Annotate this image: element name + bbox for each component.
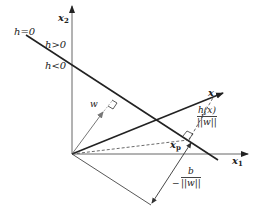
offset-numerator: b (181, 167, 201, 178)
negative-region-label: h<0 (45, 61, 66, 71)
origin-to-bias-vertex (72, 154, 151, 205)
w-label: w (90, 100, 98, 109)
x-label: x (208, 88, 214, 98)
boundary-label: h=0 (14, 27, 35, 37)
decision-boundary-line (26, 35, 218, 160)
xp-label: xp (170, 140, 181, 151)
distance-denominator: ||w|| (197, 117, 217, 127)
x1-axis-label: x1 (232, 156, 243, 167)
x2-axis-label: x2 (58, 13, 69, 24)
diagram-canvas (0, 0, 260, 216)
offset-denominator: ||w|| (181, 178, 201, 188)
positive-region-label: h>0 (45, 40, 66, 50)
offset-fraction: b ||w|| (181, 167, 201, 188)
distance-numerator: h(x) (197, 106, 217, 117)
offset-sign: − (172, 178, 180, 188)
distance-fraction: h(x) ||w|| (197, 106, 217, 127)
